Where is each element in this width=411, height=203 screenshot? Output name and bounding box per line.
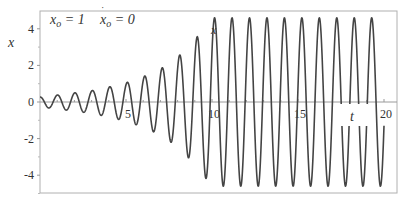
svg-text:xo = 1: xo = 1 [49,12,85,29]
y-tick-label: 0 [28,95,34,109]
y-tick-label: -4 [24,168,34,182]
curve-label: x [210,23,217,37]
x-tick-label: 20 [380,107,392,121]
line-chart: -4-2024 5101520 t x xo = 1 ˙ xo = 0 x [0,0,411,203]
y-axis-label: x [7,35,15,50]
initial-condition-xdot0: ˙ xo = 0 [99,5,135,29]
y-axis-ticks: -4-2024 [24,22,40,194]
x-tick-label: 5 [125,107,131,121]
y-tick-label: 4 [28,22,34,36]
x-tick-label: 15 [294,107,306,121]
y-tick-label: 2 [28,58,34,72]
initial-condition-x0: xo = 1 [49,12,85,29]
svg-text:xo = 0: xo = 0 [99,12,135,29]
y-tick-label: -2 [24,132,34,146]
xdot0-value: = 0 [111,12,134,27]
x0-value: = 1 [61,12,84,27]
